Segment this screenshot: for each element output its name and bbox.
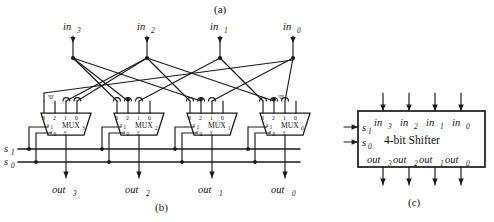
mux-1-sublabel: 1 — [228, 125, 231, 131]
panel-b-output-labels: out 3 out 2 out 1 out 0 — [52, 184, 296, 198]
block-output-sub-out3: 3 — [387, 159, 392, 168]
mux-1-out-pin: y — [209, 129, 213, 135]
block-input-label-in0: in — [452, 117, 460, 128]
block-select-label-s1: s — [362, 122, 366, 133]
panel-b-routing-network — [44, 58, 293, 101]
mux-3-pin-2: 2 — [53, 115, 56, 121]
block-input-label-in2: in — [400, 117, 408, 128]
select-sub-s1: 1 — [11, 148, 15, 157]
figure-svg: (a) in 3 in 2 in 1 in 0 — [0, 0, 494, 222]
panel-label-b: (b) — [155, 201, 168, 214]
mux-2-pin-2: 2 — [126, 115, 129, 121]
mux-0-sublabel: 0 — [301, 125, 304, 131]
mux-2-pin-3: 3 — [115, 115, 118, 121]
input-label-in0: in — [283, 21, 291, 32]
block-select-label-s0: s — [362, 137, 366, 148]
block-input-sub-in0: 0 — [466, 122, 470, 131]
output-sub-out2: 2 — [146, 189, 150, 198]
block-title: 4-bit Shifter — [384, 134, 440, 146]
mux-0-sel-s0-sub: 0 — [273, 131, 276, 137]
block-output-label-out1: out — [419, 154, 434, 165]
mux-2-out-pin: y — [136, 129, 140, 135]
mux-0-out-pin: y — [282, 129, 286, 135]
block-input-label-in3: in — [374, 117, 382, 128]
mux-1-sel-s0-sub: 0 — [200, 131, 203, 137]
output-label-out2: out — [125, 184, 140, 195]
block-output-label-out2: out — [393, 154, 408, 165]
mux-2[interactable]: 3 2 1 0 MUX 2 s 1 s 0 y — [114, 101, 164, 137]
input-label-in1: in — [210, 21, 218, 32]
panel-label-c: (c) — [408, 196, 421, 209]
output-sub-out0: 0 — [292, 189, 296, 198]
output-sub-out3: 3 — [72, 189, 77, 198]
panel-c-block[interactable]: in 3 in 2 in 1 in 0 s 1 s 0 4-bit Shifte… — [344, 93, 485, 185]
block-select-sub-s1: 1 — [368, 127, 372, 136]
block-output-label-out3: out — [367, 154, 382, 165]
panel-label-a: (a) — [214, 3, 227, 16]
mux-0-pin-2: 2 — [272, 115, 275, 121]
constant-zero-mux0: '0' — [278, 93, 284, 101]
mux-3-sublabel: 3 — [82, 125, 85, 131]
output-label-out3: out — [52, 184, 67, 195]
output-label-out0: out — [271, 184, 286, 195]
figure-root: (a) in 3 in 2 in 1 in 0 — [0, 0, 494, 222]
mux-1[interactable]: 3 2 1 0 MUX 1 s 1 s 0 y — [187, 101, 237, 137]
mux-3-out-pin: y — [63, 129, 67, 135]
mux-1-sel-s0: s — [196, 129, 198, 135]
select-label-s1: s — [4, 143, 8, 154]
input-label-in2: in — [137, 21, 145, 32]
mux-0-pin-3: 3 — [261, 115, 264, 121]
input-sub-in3: 3 — [76, 26, 81, 35]
block-select-sub-s0: 0 — [368, 142, 372, 151]
block-output-sub-out0: 0 — [466, 159, 470, 168]
mux-2-sel-s0: s — [123, 129, 125, 135]
block-output-sub-out2: 2 — [414, 159, 418, 168]
mux-3-sel-s0-sub: 0 — [54, 131, 57, 137]
block-input-sub-in2: 2 — [414, 122, 418, 131]
block-output-label-out0: out — [445, 154, 460, 165]
mux-0[interactable]: 3 2 1 0 MUX 0 s 1 s 0 y — [260, 101, 310, 137]
block-input-sub-in3: 3 — [387, 122, 392, 131]
output-sub-out1: 1 — [219, 189, 223, 198]
mux-0-sel-s0: s — [269, 129, 271, 135]
input-sub-in0: 0 — [297, 26, 301, 35]
mux-1-pin-3: 3 — [188, 115, 191, 121]
mux-3-pin-3: 3 — [42, 115, 45, 121]
input-label-in3: in — [63, 21, 71, 32]
block-output-sub-out1: 1 — [440, 159, 444, 168]
panel-b-input-labels: in 3 in 2 in 1 in 0 — [63, 21, 301, 35]
mux-1-pin-2: 2 — [199, 115, 202, 121]
panel-b-pin-hops — [63, 98, 288, 101]
block-input-sub-in1: 1 — [440, 122, 444, 131]
mux-3-sel-s0: s — [50, 129, 52, 135]
input-sub-in1: 1 — [224, 26, 228, 35]
mux-2-sel-s0-sub: 0 — [127, 131, 130, 137]
mux-3[interactable]: 3 2 1 0 MUX 3 s 1 s 0 y — [41, 101, 91, 137]
mux-2-sublabel: 2 — [155, 125, 158, 131]
input-sub-in2: 2 — [151, 26, 155, 35]
constant-zero-mux3: '0' — [48, 93, 54, 101]
select-sub-s0: 0 — [11, 161, 15, 170]
panel-b-input-stems — [70, 36, 295, 60]
output-label-out1: out — [198, 184, 213, 195]
select-label-s0: s — [4, 156, 8, 167]
block-input-label-in1: in — [426, 117, 434, 128]
